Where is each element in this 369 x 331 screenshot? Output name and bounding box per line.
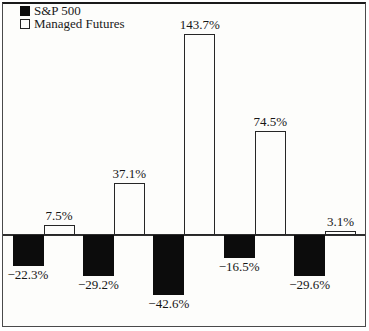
- legend-item-managed-futures: Managed Futures: [20, 18, 125, 30]
- bar-value-label-managed-futures: 7.5%: [45, 209, 72, 223]
- managed-futures-swatch-icon: [20, 19, 30, 29]
- bar-managed-futures: [114, 183, 145, 235]
- bar-value-label-sp500: −29.6%: [289, 278, 330, 292]
- chart-legend: S&P 500 Managed Futures: [20, 4, 125, 30]
- bar-value-label-managed-futures: 74.5%: [253, 115, 287, 129]
- bar-managed-futures: [44, 225, 75, 236]
- bar-value-label-managed-futures: 37.1%: [113, 167, 147, 181]
- bar-value-label-sp500: −22.3%: [8, 268, 49, 282]
- bar-value-label-sp500: −29.2%: [78, 278, 119, 292]
- bar-sp500: [153, 235, 184, 295]
- bar-sp500: [224, 235, 255, 258]
- bar-managed-futures: [325, 231, 356, 235]
- bar-value-label-managed-futures: 3.1%: [327, 215, 354, 229]
- bar-sp500: [83, 235, 114, 276]
- bar-sp500: [294, 235, 325, 276]
- bar-value-label-sp500: −42.6%: [148, 297, 189, 311]
- bar-sp500: [13, 235, 44, 266]
- bar-managed-futures: [255, 131, 286, 235]
- sp500-swatch-icon: [20, 6, 30, 16]
- bar-value-label-sp500: −16.5%: [219, 260, 260, 274]
- bar-value-label-managed-futures: 143.7%: [180, 18, 220, 32]
- legend-label-managed-futures: Managed Futures: [34, 18, 125, 30]
- bar-managed-futures: [184, 34, 215, 235]
- grouped-bar-chart: S&P 500 Managed Futures −22.3%7.5%−29.2%…: [2, 2, 366, 327]
